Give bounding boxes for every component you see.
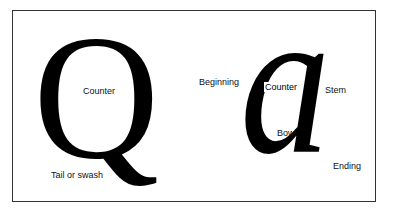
a-stem-label: Stem — [325, 85, 346, 95]
a-bowl-label: Bowl — [277, 128, 297, 138]
q-tail-label: Tail or swash — [51, 170, 103, 180]
letter-a-glyph: a — [240, 0, 330, 186]
a-ending-label: Ending — [333, 161, 361, 171]
q-counter-label: Counter — [83, 86, 115, 96]
a-beginning-label: Beginning — [199, 77, 239, 87]
letter-q-glyph: Q — [33, 8, 159, 186]
a-counter-label: Counter — [264, 82, 298, 92]
